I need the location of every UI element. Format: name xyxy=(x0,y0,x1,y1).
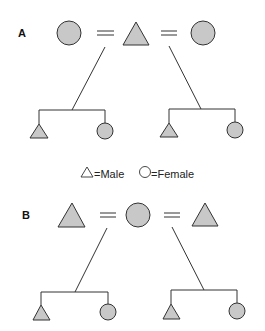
female-circle-icon xyxy=(57,21,81,45)
male-child-triangle-icon xyxy=(160,123,178,137)
male-child-triangle-icon xyxy=(33,305,50,320)
triangle-icon xyxy=(81,167,93,177)
female-child-circle-icon xyxy=(229,303,245,319)
female-child-circle-icon xyxy=(97,123,113,139)
sibling-group-right xyxy=(160,109,243,138)
legend-male-text: =Male xyxy=(94,168,124,180)
female-child-circle-icon xyxy=(227,122,243,138)
male-child-triangle-icon xyxy=(163,304,180,319)
sibling-group-left xyxy=(30,110,113,139)
female-child-circle-icon xyxy=(100,304,116,320)
panel-a-label: A xyxy=(18,27,26,39)
legend: =Male =Female xyxy=(81,167,194,181)
panel-a: A xyxy=(18,21,243,139)
male-triangle-icon xyxy=(58,203,85,227)
descent-line xyxy=(169,46,201,109)
kinship-diagram: A =Male =Female xyxy=(0,0,265,331)
panel-b: B xyxy=(22,203,245,320)
marriage-equals-icon xyxy=(164,213,180,217)
male-triangle-icon xyxy=(192,203,218,226)
marriage-equals-icon xyxy=(161,31,177,35)
legend-female-text: =Female xyxy=(151,168,194,180)
circle-icon xyxy=(140,167,151,178)
panel-b-label: B xyxy=(22,209,30,221)
sibling-group-left xyxy=(33,292,116,320)
marriage-equals-icon xyxy=(97,31,114,35)
descent-line xyxy=(172,227,204,290)
female-circle-icon xyxy=(126,203,150,227)
male-triangle-icon xyxy=(123,22,149,45)
male-child-triangle-icon xyxy=(30,124,48,138)
descent-line xyxy=(72,47,105,110)
female-circle-icon xyxy=(191,21,215,45)
marriage-equals-icon xyxy=(100,213,116,217)
sibling-group-right xyxy=(163,290,245,319)
descent-line xyxy=(75,228,107,292)
